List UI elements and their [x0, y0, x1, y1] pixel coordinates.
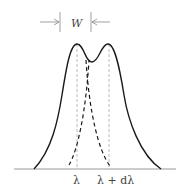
lambda-plus-d-text: λ + d: [97, 174, 127, 187]
lambda-label: λ: [73, 174, 80, 187]
width-arrow-left-icon: [40, 19, 59, 25]
lambda-suffix-text: λ: [127, 174, 134, 187]
component-line-lambda: [69, 60, 89, 165]
lambda-plus-dlambda-label: λ + dλ: [97, 174, 134, 187]
spectral-line-diagram: W λ λ + dλ: [0, 0, 190, 194]
width-arrow-right-icon: [92, 19, 110, 25]
component-line-lambda-plus-dlambda: [86, 60, 110, 166]
combined-profile-curve: [34, 44, 161, 169]
width-label: W: [71, 17, 84, 30]
